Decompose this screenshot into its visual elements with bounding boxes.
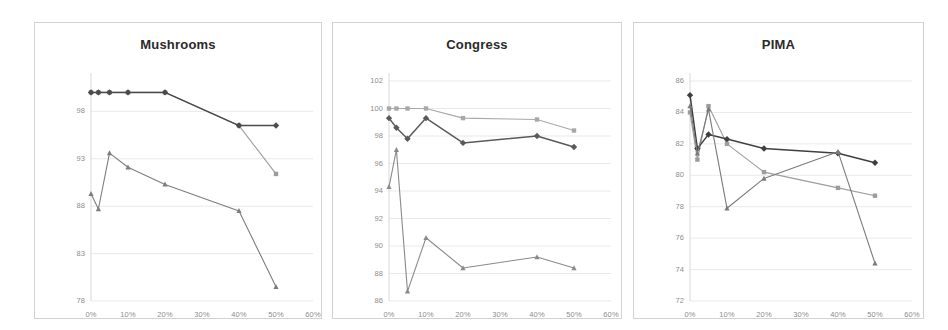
data-point-marker	[106, 89, 112, 95]
y-tick-label: 100	[370, 104, 383, 113]
y-tick-label: 80	[675, 170, 684, 179]
data-point-marker	[273, 122, 279, 128]
data-point-marker	[534, 133, 540, 139]
x-tick-label: 40%	[820, 310, 856, 319]
data-point-marker	[125, 89, 131, 95]
data-point-marker	[273, 284, 278, 289]
y-tick-label: 86	[374, 296, 383, 305]
data-point-marker	[761, 145, 767, 151]
data-point-marker	[107, 150, 112, 155]
data-point-marker	[571, 144, 577, 150]
x-tick-label: 0%	[73, 310, 109, 319]
three-panel-line-chart-figure: Mushrooms78838893980%10%20%30%40%50%60%C…	[0, 0, 948, 330]
data-point-marker	[534, 254, 539, 259]
x-tick-label: 60%	[593, 310, 629, 319]
series-line-pima-1	[690, 95, 875, 163]
data-point-marker	[835, 149, 840, 154]
series-line-congress-0	[389, 109, 574, 131]
chart-panel-pima: PIMA72747678808284860%10%20%30%40%50%60%	[633, 22, 924, 319]
y-tick-label: 88	[76, 201, 85, 210]
data-point-marker	[88, 89, 94, 95]
x-tick-label: 30%	[184, 310, 220, 319]
data-point-marker	[836, 186, 840, 190]
data-point-marker	[424, 106, 428, 110]
x-tick-label: 10%	[709, 310, 745, 319]
series-line-congress-2	[389, 150, 574, 292]
data-point-marker	[535, 117, 539, 121]
x-tick-label: 20%	[147, 310, 183, 319]
y-tick-label: 78	[675, 202, 684, 211]
y-tick-label: 98	[76, 106, 85, 115]
chart-panel-mushrooms: Mushrooms78838893980%10%20%30%40%50%60%	[34, 22, 322, 319]
x-tick-label: 0%	[672, 310, 708, 319]
data-point-marker	[96, 206, 101, 211]
x-tick-label: 60%	[295, 310, 331, 319]
data-point-marker	[572, 128, 576, 132]
y-tick-label: 82	[675, 139, 684, 148]
y-tick-label: 93	[76, 154, 85, 163]
series-line-mushrooms-0	[91, 92, 276, 173]
data-point-marker	[695, 157, 699, 161]
y-tick-label: 98	[374, 131, 383, 140]
series-line-pima-2	[690, 106, 875, 263]
y-tick-label: 74	[675, 265, 684, 274]
data-point-marker	[687, 92, 693, 98]
x-tick-label: 50%	[556, 310, 592, 319]
y-tick-label: 94	[374, 186, 383, 195]
data-point-marker	[405, 106, 409, 110]
y-tick-label: 84	[675, 107, 684, 116]
y-tick-label: 76	[675, 233, 684, 242]
series-line-mushrooms-1	[91, 92, 276, 125]
data-point-marker	[274, 172, 278, 176]
data-point-marker	[423, 235, 428, 240]
x-tick-label: 40%	[221, 310, 257, 319]
data-point-marker	[387, 106, 391, 110]
x-tick-label: 10%	[408, 310, 444, 319]
y-tick-label: 78	[76, 296, 85, 305]
data-point-marker	[405, 289, 410, 294]
series-line-mushrooms-2	[91, 153, 276, 287]
data-point-marker	[724, 136, 730, 142]
x-tick-label: 50%	[258, 310, 294, 319]
data-point-marker	[461, 116, 465, 120]
y-tick-label: 86	[675, 76, 684, 85]
y-tick-label: 72	[675, 296, 684, 305]
x-tick-label: 20%	[746, 310, 782, 319]
y-tick-label: 96	[374, 159, 383, 168]
data-point-marker	[873, 194, 877, 198]
x-tick-label: 0%	[371, 310, 407, 319]
data-point-marker	[95, 89, 101, 95]
x-tick-label: 30%	[482, 310, 518, 319]
x-tick-label: 10%	[110, 310, 146, 319]
data-point-marker	[394, 147, 399, 152]
x-tick-label: 50%	[857, 310, 893, 319]
x-tick-label: 60%	[894, 310, 930, 319]
data-point-marker	[386, 184, 391, 189]
y-tick-label: 90	[374, 241, 383, 250]
data-point-marker	[762, 170, 766, 174]
x-tick-label: 20%	[445, 310, 481, 319]
data-point-marker	[872, 260, 877, 265]
y-tick-label: 102	[370, 76, 383, 85]
x-tick-label: 40%	[519, 310, 555, 319]
y-tick-label: 92	[374, 214, 383, 223]
data-point-marker	[88, 191, 93, 196]
data-point-marker	[162, 89, 168, 95]
data-point-marker	[872, 160, 878, 166]
plot-area-mushrooms	[35, 23, 323, 320]
chart-panel-congress: Congress868890929496981001020%10%20%30%4…	[332, 22, 622, 319]
y-tick-label: 83	[76, 249, 85, 258]
y-tick-label: 88	[374, 269, 383, 278]
series-line-pima-0	[690, 106, 875, 196]
data-point-marker	[394, 106, 398, 110]
x-tick-label: 30%	[783, 310, 819, 319]
